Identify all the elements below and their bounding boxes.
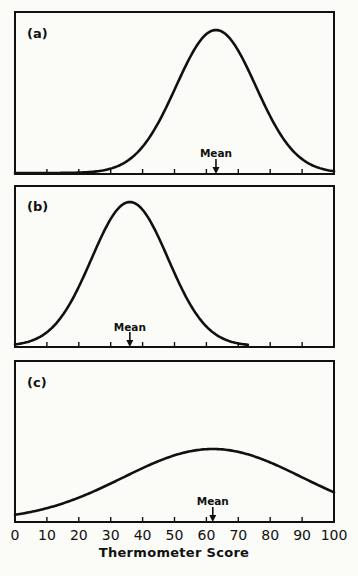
x-tick-label: 100	[321, 527, 348, 543]
panel-a-frame	[15, 12, 334, 174]
x-tick-label: 20	[70, 527, 88, 543]
panel-c-curve	[15, 449, 334, 515]
panel-c-mean-label: Mean	[197, 495, 229, 507]
panel-b-frame	[15, 186, 334, 347]
panel-b: (b) Mean	[15, 186, 334, 347]
figure: (a) Mean (b) Mean (c) Mean 0102030405060…	[0, 0, 358, 576]
x-tick-label: 60	[197, 527, 215, 543]
panel-a-mean-label: Mean	[200, 147, 232, 159]
panel-a-mean-arrow-icon	[212, 159, 219, 174]
panel-c-label: (c)	[27, 375, 47, 390]
x-axis-title: Thermometer Score	[99, 545, 250, 560]
x-tick-label: 90	[293, 527, 311, 543]
panel-b-label: (b)	[27, 199, 48, 214]
panel-c: (c) Mean	[15, 361, 334, 522]
x-tick-label: 40	[134, 527, 152, 543]
panel-c-frame	[15, 361, 334, 522]
panel-b-mean-arrow-icon	[126, 332, 133, 347]
x-tick-label: 30	[102, 527, 120, 543]
panel-c-mean-arrow-icon	[209, 507, 216, 522]
x-axis-tick-labels: 0102030405060708090100	[11, 527, 348, 543]
x-tick-label: 0	[11, 527, 20, 543]
panel-a-label: (a)	[27, 26, 48, 41]
x-tick-label: 70	[229, 527, 247, 543]
x-tick-label: 50	[166, 527, 184, 543]
x-tick-label: 80	[261, 527, 279, 543]
x-tick-label: 10	[38, 527, 56, 543]
panel-b-mean-label: Mean	[114, 321, 146, 333]
panel-a-curve	[15, 30, 334, 173]
panel-a: (a) Mean	[15, 12, 334, 174]
